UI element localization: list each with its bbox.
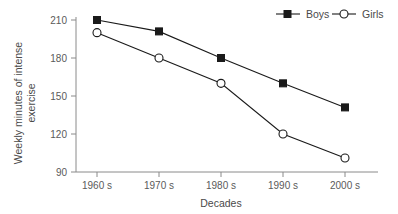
data-point-boys-1960s [94, 17, 101, 24]
legend-label-girls: Girls [362, 8, 384, 20]
series-boys [94, 17, 349, 111]
x-tick-label-1960s: 1960 s [82, 180, 112, 191]
y-axis-ticks: 210 180 150 120 90 [50, 15, 76, 178]
data-point-boys-1980s [218, 55, 225, 62]
x-axis-title: Decades [200, 197, 241, 209]
y-tick-label-150: 150 [50, 91, 67, 102]
x-tick-label-1980s: 1980 s [206, 180, 236, 191]
data-point-girls-1980s [217, 79, 225, 87]
chart-container: Weekly minutes of intense exercise 210 1… [0, 0, 398, 214]
data-point-boys-1970s [156, 28, 163, 35]
data-point-girls-1970s [155, 54, 163, 62]
line-chart: Weekly minutes of intense exercise 210 1… [0, 0, 398, 214]
data-point-girls-2000s [341, 154, 349, 162]
series-layer [93, 17, 349, 163]
y-tick-label-180: 180 [50, 53, 67, 64]
legend-item-boys[interactable]: Boys [276, 8, 329, 20]
data-point-boys-2000s [342, 104, 349, 111]
x-tick-label-1990s: 1990 s [268, 180, 298, 191]
open-circle-icon [340, 10, 348, 18]
filled-square-icon [284, 11, 291, 18]
y-axis-title-line1: Weekly minutes of intense [12, 42, 24, 165]
chart-legend: Boys Girls [276, 8, 384, 20]
y-axis-title: Weekly minutes of intense exercise [12, 42, 37, 165]
y-axis-title-line2: exercise [25, 83, 37, 122]
series-line-boys [97, 20, 345, 107]
series-line-girls [97, 33, 345, 158]
series-girls [93, 29, 349, 162]
data-point-girls-1960s [93, 29, 101, 37]
y-tick-label-90: 90 [56, 167, 68, 178]
x-tick-label-2000s: 2000 s [330, 180, 360, 191]
legend-label-boys: Boys [306, 8, 329, 20]
data-point-girls-1990s [279, 130, 287, 138]
data-point-boys-1990s [280, 80, 287, 87]
legend-item-girls[interactable]: Girls [332, 8, 384, 20]
y-tick-label-210: 210 [50, 15, 67, 26]
y-tick-label-120: 120 [50, 129, 67, 140]
x-axis-ticks: 1960 s 1970 s 1980 s 1990 s 2000 s [82, 172, 360, 191]
x-tick-label-1970s: 1970 s [144, 180, 174, 191]
